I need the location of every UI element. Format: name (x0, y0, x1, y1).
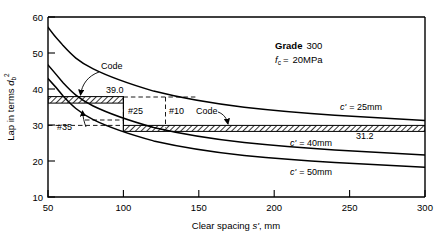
y-tick-20: 20 (32, 156, 43, 167)
x-tick-150: 150 (191, 202, 207, 213)
note-fc-value: 20MPa (292, 54, 323, 65)
y-tick-40: 40 (32, 84, 43, 95)
note-grade-label: Grade (275, 40, 302, 51)
y-axis-title-main: Lap in terms (5, 86, 16, 141)
y-axis-title: Lap in terms db2 (3, 73, 17, 141)
x-tick-50: 50 (43, 202, 54, 213)
annotation-value-39: 39.0 (106, 85, 124, 95)
x-axis-title-text: Clear spacing s', mm (192, 220, 281, 231)
curve-label-c40-var: c' (290, 138, 297, 148)
y-axis-title-sup: 2 (3, 73, 10, 77)
note-grade-value: 300 (306, 40, 322, 51)
curve-label-c50-val: = 50mm (299, 167, 332, 177)
y-axis-title-sub: b (10, 77, 17, 81)
y-axis-title-text: Lap in terms db2 (3, 73, 17, 141)
y-tick-30: 30 (32, 120, 43, 131)
note-fc-line: fc=20MPa (275, 54, 323, 66)
curve-label-c40-val: = 40mm (299, 138, 332, 148)
note-grade-line: Grade300 (275, 40, 322, 51)
x-axis-title-unit: , mm (259, 220, 280, 231)
annotation-bar-35: #35 (57, 122, 72, 132)
x-tick-200: 200 (266, 202, 282, 213)
y-tick-60: 60 (32, 12, 43, 23)
y-tick-50: 50 (32, 48, 43, 59)
chart-svg: 60 50 40 30 20 10 50 100 150 200 250 300… (0, 0, 441, 243)
annotation-bar-25: #25 (128, 106, 143, 116)
figure-container: 60 50 40 30 20 10 50 100 150 200 250 300… (0, 0, 441, 243)
annotation-code-lower: Code (196, 106, 218, 116)
annotation-bar-10: #10 (169, 106, 184, 116)
annotation-code-upper: Code (101, 61, 123, 71)
curve-label-c50-var: c' (290, 167, 297, 177)
x-axis-title-main: Clear spacing (192, 220, 253, 231)
curve-label-c25-var: c' (340, 102, 347, 112)
x-tick-250: 250 (342, 202, 358, 213)
curve-label-c25-val: = 25mm (349, 102, 382, 112)
note-fc-eq: = (283, 54, 289, 65)
y-tick-10: 10 (32, 192, 43, 203)
annotation-value-31: 31.2 (356, 131, 374, 141)
x-axis-title: Clear spacing s', mm (192, 220, 281, 231)
x-tick-300: 300 (417, 202, 433, 213)
x-tick-100: 100 (115, 202, 131, 213)
